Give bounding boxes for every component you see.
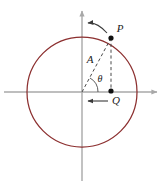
point-Q-dot — [108, 88, 113, 93]
tangential-velocity-arrow — [88, 23, 107, 33]
figure-canvas: P Q A θ — [0, 0, 165, 186]
circular-motion-figure: P Q A θ — [0, 0, 165, 186]
theta-label: θ — [98, 73, 103, 84]
amplitude-label: A — [86, 53, 94, 65]
point-P-label: P — [116, 22, 124, 34]
point-P-dot — [108, 35, 113, 40]
point-Q-label: Q — [112, 94, 120, 106]
